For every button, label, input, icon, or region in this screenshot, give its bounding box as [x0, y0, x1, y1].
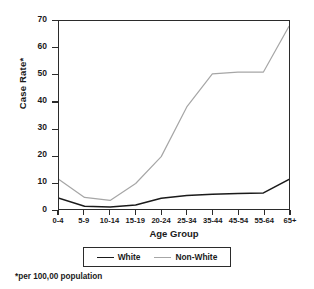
- chart-figure: Case Rate* 010203040506070 0-45-910-1415…: [0, 0, 314, 289]
- x-axis-tick-mark: [109, 210, 110, 215]
- legend-swatch-white: [97, 257, 114, 258]
- x-axis-tick-mark: [135, 210, 136, 215]
- series-line-white: [59, 179, 289, 207]
- series-line-non-white: [59, 26, 289, 200]
- x-axis-tick-mark: [289, 210, 290, 215]
- y-axis-tick-label: 40: [38, 95, 47, 106]
- x-axis-tick-mark: [212, 210, 213, 215]
- x-axis-tick-mark: [83, 210, 84, 215]
- x-axis-tick-mark: [264, 210, 265, 215]
- x-axis-title: Age Group: [58, 228, 290, 239]
- x-axis-tick-mark: [57, 210, 58, 215]
- x-axis-tick-mark: [161, 210, 162, 215]
- y-axis-tick-label: 30: [38, 122, 47, 133]
- legend-swatch-non-white: [154, 257, 171, 258]
- legend-item-white: White: [97, 252, 141, 262]
- y-axis-tick-label: 50: [38, 68, 47, 79]
- y-axis-tick-label: 70: [38, 14, 47, 25]
- y-axis-tick-label: 10: [38, 176, 47, 187]
- legend-label-non-white: Non-White: [175, 252, 217, 262]
- x-axis-tick-mark: [186, 210, 187, 215]
- series-canvas: [59, 21, 289, 209]
- y-axis-title: Case Rate*: [17, 38, 28, 130]
- y-axis-tick-label: 60: [38, 41, 47, 52]
- x-axis-tick-mark: [238, 210, 239, 215]
- chart-legend: White Non-White: [83, 247, 231, 267]
- chart-footnote: *per 100,00 population: [15, 272, 102, 281]
- x-axis-tick-label: 65+: [268, 216, 312, 225]
- legend-item-non-white: Non-White: [154, 252, 217, 262]
- y-axis-tick-label: 20: [38, 149, 47, 160]
- legend-label-white: White: [118, 252, 141, 262]
- y-axis-tick-label: 0: [42, 204, 47, 215]
- plot-area: [58, 20, 290, 210]
